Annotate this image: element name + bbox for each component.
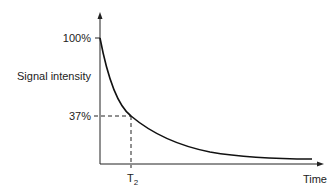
y-tick-100-label: 100% (63, 32, 91, 44)
y-axis-arrow-icon (98, 12, 103, 19)
x-tick-t2-label: T2 (127, 172, 139, 187)
y-tick-37-label: 37% (69, 110, 91, 122)
x-axis-label: Time (303, 173, 327, 185)
y-axis-label: Signal intensity (17, 70, 91, 82)
decay-chart: 100% 37% Signal intensity Time T2 (0, 0, 335, 191)
decay-curve (100, 38, 312, 159)
x-axis-arrow-icon (317, 162, 324, 167)
